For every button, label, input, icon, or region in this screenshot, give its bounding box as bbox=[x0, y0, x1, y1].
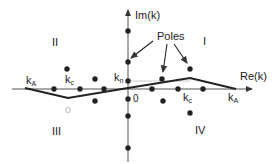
kc-right-label: kc bbox=[183, 91, 193, 104]
quadrant-IV-label: IV bbox=[195, 124, 206, 136]
kn-label: kn bbox=[114, 71, 124, 84]
origin-label: 0 bbox=[133, 93, 139, 104]
kc-left-label: kc bbox=[65, 73, 75, 86]
complex-plane-diagram: Im(k) Re(k) 0 Poles I II III IV kA kc kn… bbox=[0, 0, 275, 164]
imag-axis-label: Im(k) bbox=[135, 9, 160, 21]
open-point bbox=[66, 108, 71, 113]
poles-label: Poles bbox=[157, 30, 185, 42]
real-axis-label: Re(k) bbox=[240, 70, 267, 82]
quadrant-III-label: III bbox=[52, 125, 61, 137]
kA-left-label: kA bbox=[26, 74, 37, 87]
kA-right-label: kA bbox=[228, 91, 239, 104]
quadrant-I-label: I bbox=[203, 35, 206, 47]
quadrant-II-label: II bbox=[52, 36, 58, 48]
poles-pointer-arrows bbox=[131, 41, 187, 72]
